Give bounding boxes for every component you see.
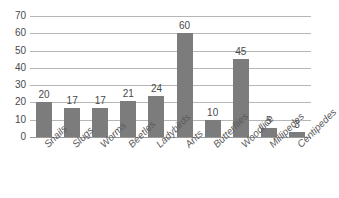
y-axis-tick-label: 0 xyxy=(2,132,26,142)
category-label-slot: Ladybirds xyxy=(142,140,170,198)
y-axis: 706050403020100 xyxy=(0,16,26,137)
bar-value-label: 20 xyxy=(38,90,49,100)
bar-value-label: 17 xyxy=(95,96,106,106)
category-label-slot: Butterflies xyxy=(199,140,227,198)
bar-value-label: 17 xyxy=(67,96,78,106)
bar-group: 20 xyxy=(30,16,58,137)
category-label-slot: Worms xyxy=(86,140,114,198)
bar-value-label: 60 xyxy=(179,21,190,31)
bar-group: 17 xyxy=(86,16,114,137)
bar-group: 24 xyxy=(142,16,170,137)
category-label-slot: Woodlice xyxy=(227,140,255,198)
bar-snails xyxy=(36,102,52,137)
y-axis-tick-label: 40 xyxy=(2,63,26,73)
category-label-slot: Ants xyxy=(171,140,199,198)
category-label-slot: Millipedes xyxy=(255,140,283,198)
y-axis-tick-label: 70 xyxy=(2,11,26,21)
category-label-slot: Beetles xyxy=(114,140,142,198)
bar-value-label: 24 xyxy=(151,84,162,94)
bar-value-label: 10 xyxy=(207,108,218,118)
bar-group: 21 xyxy=(114,16,142,137)
bar-group: 17 xyxy=(58,16,86,137)
bar-value-label: 45 xyxy=(235,47,246,57)
y-axis-tick-label: 60 xyxy=(2,28,26,38)
category-label-slot: Slugs xyxy=(58,140,86,198)
y-axis-tick-label: 50 xyxy=(2,46,26,56)
x-axis-category-labels: SnailsSlugsWormsBeetlesLadybirdsAntsButt… xyxy=(30,140,311,198)
category-label-slot: Centipedes xyxy=(283,140,311,198)
bar-value-label: 21 xyxy=(123,89,134,99)
category-label-slot: Snails xyxy=(30,140,58,198)
y-axis-tick-label: 30 xyxy=(2,80,26,90)
bar-group: 10 xyxy=(199,16,227,137)
y-axis-tick-label: 10 xyxy=(2,115,26,125)
y-axis-tick-label: 20 xyxy=(2,97,26,107)
